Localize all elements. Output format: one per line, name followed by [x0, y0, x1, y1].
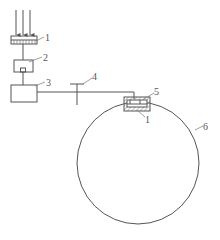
component-2: 2 [14, 52, 48, 72]
label-1-top: 1 [45, 32, 50, 43]
incident-arrows [16, 10, 30, 35]
label-1-bottom: 1 [145, 114, 150, 125]
label-5: 5 [154, 86, 159, 97]
label-4: 4 [92, 71, 97, 82]
ring-6: 6 [77, 102, 208, 224]
label-6: 6 [203, 121, 208, 132]
label-3: 3 [46, 77, 51, 88]
component-3: 3 [11, 77, 51, 102]
schematic-diagram: 1 2 3 4 6 5 1 [0, 0, 220, 240]
label-2: 2 [43, 52, 48, 63]
valve-4: 4 [70, 71, 97, 105]
pipe-line [37, 92, 134, 99]
